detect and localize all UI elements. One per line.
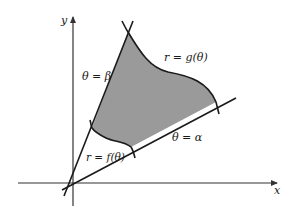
x-axis-label: x bbox=[274, 184, 281, 197]
y-axis-label: y bbox=[60, 14, 68, 27]
alpha-ray-label: θ = α bbox=[172, 131, 203, 144]
polar-region-diagram: y x θ = β θ = α r = g(θ) r = f(θ) bbox=[0, 0, 296, 209]
inner-curve-label: r = f(θ) bbox=[86, 151, 125, 163]
outer-curve-label: r = g(θ) bbox=[164, 51, 208, 64]
beta-ray-label: θ = β bbox=[82, 70, 111, 83]
shaded-region bbox=[92, 32, 216, 147]
